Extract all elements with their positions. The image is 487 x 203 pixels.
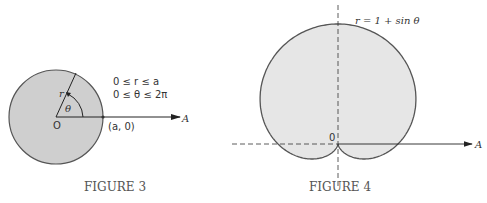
axis-label: A: [181, 113, 189, 124]
figure-4-caption: FIGURE 4: [309, 180, 371, 194]
origin-label: O: [53, 120, 61, 131]
figure-3: r θ O (a, 0) A 0 ≤ r ≤ a 0 ≤ θ ≤ 2π FIGU…: [9, 70, 189, 194]
constraint-theta: 0 ≤ θ ≤ 2π: [113, 89, 167, 100]
figure-4: 0 A r = 1 + sin θ FIGURE 4: [232, 5, 482, 194]
cardioid: [260, 24, 416, 159]
constraint-r: 0 ≤ r ≤ a: [113, 76, 159, 87]
axis-label: A: [474, 139, 482, 150]
equation-label: r = 1 + sin θ: [355, 15, 420, 26]
angle-label: θ: [65, 103, 71, 114]
point-label: (a, 0): [108, 121, 135, 132]
point-a0: [101, 115, 104, 118]
figure-3-caption: FIGURE 3: [84, 180, 146, 194]
figures-canvas: r θ O (a, 0) A 0 ≤ r ≤ a 0 ≤ θ ≤ 2π FIGU…: [0, 0, 487, 203]
origin-label: 0: [329, 132, 335, 143]
